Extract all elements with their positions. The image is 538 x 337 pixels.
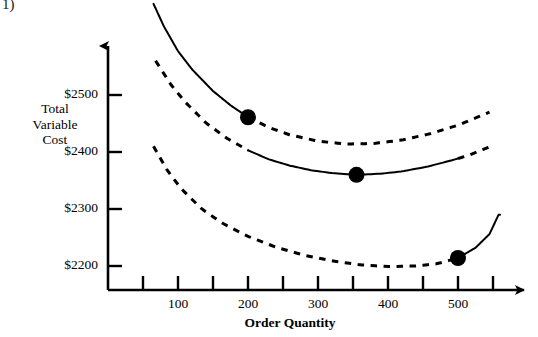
cost-curve-price-1-solid — [154, 4, 249, 117]
x-axis-tick-label: 200 — [228, 296, 268, 312]
y-axis-tick-label: $2300 — [36, 200, 98, 216]
y-axis-title-line-2: Variable — [18, 117, 92, 133]
data-point-markers — [240, 109, 466, 266]
break-point-200-marker — [240, 109, 256, 125]
cost-curves-layer — [154, 4, 501, 267]
x-axis-tick-label: 400 — [368, 296, 408, 312]
cost-curve-price-2-dashed-right — [458, 147, 490, 159]
cost-curve-price-3-dashed-left — [154, 146, 459, 266]
minimum-point-355-marker — [349, 167, 365, 183]
y-axis-title: Total Variable Cost — [18, 101, 92, 148]
x-axis-ticks — [143, 276, 493, 290]
cost-curve-price-1-dashed-right — [248, 112, 490, 144]
y-axis-tick-label: $2400 — [36, 143, 98, 159]
chart-plot-area — [0, 0, 538, 337]
x-axis-tick-label: 500 — [438, 296, 478, 312]
x-axis-tick-label: 300 — [298, 296, 338, 312]
y-axis-tick-label: $2500 — [36, 86, 98, 102]
chart-figure: 1) Total Variable Cost Order Quantity $2… — [0, 0, 538, 337]
y-axis-title-line-1: Total — [18, 101, 92, 117]
cost-curve-price-3-solid — [458, 215, 500, 258]
break-point-500-marker — [450, 250, 466, 266]
cost-curve-price-2-dashed-left — [156, 61, 248, 150]
y-axis-tick-label: $2200 — [36, 257, 98, 273]
x-axis-tick-label: 100 — [158, 296, 198, 312]
y-axis-ticks — [108, 95, 122, 266]
x-axis-title: Order Quantity — [210, 315, 370, 331]
